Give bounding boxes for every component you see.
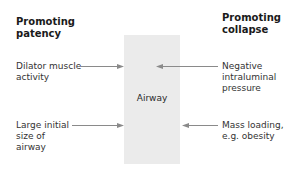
arrows-layer (0, 0, 292, 171)
arrow-pressure-to-airway-icon (156, 64, 218, 69)
arrow-size-to-airway-icon (72, 123, 124, 128)
arrow-mass-loading-to-airway-icon (182, 123, 218, 128)
arrow-dilator-to-airway-icon (81, 64, 124, 69)
